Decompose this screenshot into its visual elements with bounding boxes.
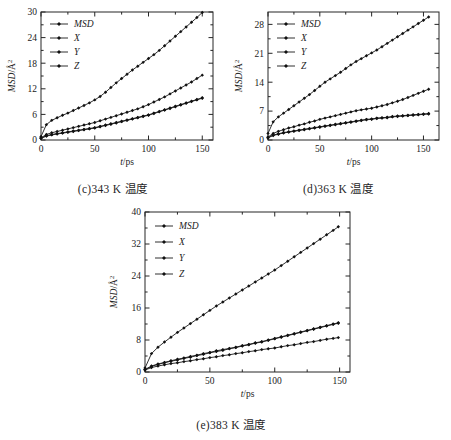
data-point-marker-x bbox=[131, 109, 134, 112]
plot-frame bbox=[145, 212, 350, 372]
data-point-marker-x bbox=[360, 108, 363, 111]
data-point-marker-z bbox=[267, 347, 270, 350]
data-point-marker-z bbox=[77, 129, 80, 132]
data-point-marker-x bbox=[411, 94, 414, 97]
data-point-marker-x bbox=[406, 96, 409, 99]
data-point-marker-z bbox=[234, 352, 237, 355]
data-point-marker-z bbox=[169, 362, 172, 365]
x-tick-label: 150 bbox=[195, 144, 210, 154]
data-point-marker-z bbox=[163, 363, 166, 366]
data-point-marker-x bbox=[391, 101, 394, 104]
data-point-marker-z bbox=[260, 348, 263, 351]
data-point-marker-z bbox=[61, 131, 64, 134]
data-point-marker-msd bbox=[82, 104, 85, 107]
legend-marker-z bbox=[162, 272, 166, 276]
data-point-marker-z bbox=[282, 131, 285, 134]
data-point-marker-x bbox=[385, 103, 388, 106]
data-point-marker-msd bbox=[77, 106, 80, 109]
data-point-marker-z bbox=[136, 116, 139, 119]
data-point-marker-y bbox=[312, 328, 315, 331]
data-point-marker-y bbox=[273, 337, 276, 340]
data-point-marker-z bbox=[195, 358, 198, 361]
y-tick-label: 40 bbox=[132, 207, 142, 217]
chart-panel-e: 0816243240050100150t/psMSD/Å2MSDXYZ bbox=[100, 200, 362, 440]
data-point-marker-z bbox=[277, 133, 280, 136]
x-axis-title: t/ps bbox=[241, 389, 255, 399]
y-tick-label: 12 bbox=[28, 84, 38, 94]
data-point-marker-x bbox=[179, 86, 182, 89]
legend-label-y: Y bbox=[179, 253, 186, 263]
data-point-marker-z bbox=[221, 354, 224, 357]
data-point-marker-x bbox=[115, 114, 118, 117]
data-point-marker-x bbox=[98, 119, 101, 122]
data-point-marker-z bbox=[120, 120, 123, 123]
data-point-marker-z bbox=[334, 123, 337, 126]
data-point-marker-x bbox=[82, 123, 85, 126]
data-point-marker-z bbox=[427, 112, 430, 115]
data-point-marker-y bbox=[234, 346, 237, 349]
y-tick-label: 30 bbox=[28, 7, 38, 17]
data-point-marker-z bbox=[93, 126, 96, 129]
data-point-marker-z bbox=[370, 118, 373, 121]
x-tick-label: 0 bbox=[39, 144, 44, 154]
y-tick-label: 21 bbox=[255, 49, 265, 59]
data-point-marker-z bbox=[312, 340, 315, 343]
data-point-marker-z bbox=[254, 349, 257, 352]
legend-marker-z bbox=[57, 64, 61, 68]
y-axis-title: MSD/Å2 bbox=[108, 276, 120, 309]
data-point-marker-x bbox=[401, 98, 404, 101]
legend-marker-x bbox=[57, 36, 61, 40]
x-tick-label: 50 bbox=[90, 144, 100, 154]
data-point-marker-z bbox=[228, 353, 231, 356]
y-tick-label: 14 bbox=[255, 78, 265, 88]
y-tick-label: 16 bbox=[132, 303, 142, 313]
data-point-marker-z bbox=[308, 127, 311, 130]
data-point-marker-z bbox=[201, 96, 204, 99]
data-point-marker-z bbox=[208, 356, 211, 359]
legend-marker-y bbox=[57, 50, 61, 54]
data-point-marker-x bbox=[365, 107, 368, 110]
data-point-marker-x bbox=[168, 92, 171, 95]
data-point-marker-msd bbox=[55, 116, 58, 119]
data-point-marker-y bbox=[299, 331, 302, 334]
data-point-marker-z bbox=[411, 114, 414, 117]
data-point-marker-z bbox=[66, 131, 69, 134]
data-point-marker-z bbox=[422, 113, 425, 116]
legend-marker-z bbox=[284, 64, 288, 68]
data-point-marker-x bbox=[163, 95, 166, 98]
legend-label-x: X bbox=[178, 237, 186, 247]
data-point-marker-y bbox=[182, 357, 185, 360]
data-point-marker-z bbox=[176, 361, 179, 364]
data-point-marker-z bbox=[360, 119, 363, 122]
series-line-x bbox=[41, 75, 202, 138]
data-point-marker-y bbox=[280, 336, 283, 339]
data-point-marker-z bbox=[287, 130, 290, 133]
x-tick-label: 50 bbox=[205, 376, 215, 386]
legend-marker-y bbox=[284, 50, 288, 54]
y-tick-label: 24 bbox=[132, 271, 142, 281]
data-point-marker-x bbox=[375, 105, 378, 108]
msd-chart-363k: 07142128050100150t/psMSD/Å2MSDXYZ bbox=[225, 0, 451, 180]
data-point-marker-z bbox=[273, 346, 276, 349]
data-point-marker-x bbox=[349, 110, 352, 113]
x-tick-label: 150 bbox=[332, 376, 347, 386]
data-point-marker-z bbox=[50, 133, 53, 136]
legend-marker-msd bbox=[57, 22, 61, 26]
series-line-msd bbox=[41, 12, 202, 136]
data-point-marker-z bbox=[303, 128, 306, 131]
y-tick-label: 0 bbox=[136, 367, 141, 377]
data-point-marker-y bbox=[286, 334, 289, 337]
data-point-marker-z bbox=[313, 126, 316, 129]
data-point-marker-z bbox=[375, 117, 378, 120]
data-point-marker-x bbox=[93, 121, 96, 124]
data-point-marker-z bbox=[318, 126, 321, 129]
data-point-marker-y bbox=[267, 339, 270, 342]
data-point-marker-y bbox=[318, 326, 321, 329]
data-point-marker-z bbox=[396, 115, 399, 118]
x-axis-title: t/ps bbox=[120, 157, 134, 167]
data-point-marker-z bbox=[401, 114, 404, 117]
y-tick-label: 8 bbox=[136, 335, 141, 345]
legend-label-msd: MSD bbox=[178, 221, 199, 231]
data-point-marker-z bbox=[82, 128, 85, 131]
data-point-marker-y bbox=[254, 342, 257, 345]
